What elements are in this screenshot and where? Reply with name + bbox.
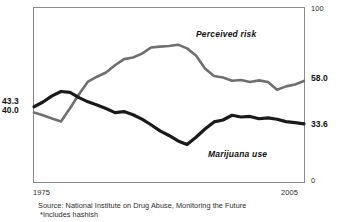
axis-label-right-perceived-risk: 58.0 (311, 73, 328, 83)
series-line-perceived-risk (34, 45, 304, 122)
axis-tick-x-start: 1975 (33, 188, 50, 197)
series-annotation-perceived-risk: Perceived risk (196, 29, 256, 39)
axis-tick-y-max: 100 (311, 4, 324, 13)
chart-footnote-text: *Includes hashish (40, 210, 98, 219)
chart-figure: 43.3 40.0 100 58.0 33.6 0 1975 2005 Perc… (0, 0, 346, 222)
axis-label-right-marijuana-use: 33.6 (311, 119, 328, 129)
axis-tick-x-end: 2005 (281, 188, 298, 197)
axis-label-left-perceived-risk: 40.0 (2, 105, 19, 115)
axis-tick-y-min: 0 (311, 176, 315, 185)
chart-source-text: Source: National Institute on Drug Abuse… (38, 201, 246, 210)
series-annotation-marijuana-use: Marijuana use (208, 149, 267, 159)
